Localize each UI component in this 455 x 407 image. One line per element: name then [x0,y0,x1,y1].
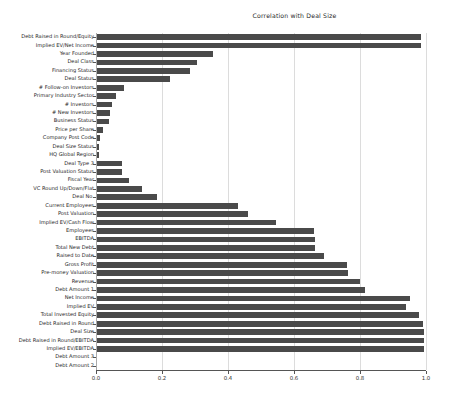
y-tick-label: Debt Raised in Round/EBITDA [19,338,94,343]
y-tick-label: Net Income [65,296,94,301]
y-tick-label: Gross Profit [65,262,94,267]
bar [96,85,124,91]
y-tick-label: Fiscal Year [68,178,94,183]
y-tick-mark [93,223,96,224]
y-axis-line [96,33,97,371]
y-tick-label: # New Investors [52,110,94,115]
y-tick-mark [93,315,96,316]
bar [96,169,122,175]
y-tick-mark [93,130,96,131]
y-tick-label: Implied EV/Net Income [36,43,94,48]
bar [96,34,421,40]
y-tick-label: Implied EV [67,304,94,309]
y-tick-mark [93,366,96,367]
y-tick-mark [93,298,96,299]
x-tick-mark [360,371,361,374]
y-tick-label: Deal Status [65,77,94,82]
y-tick-label: Company Post Code [43,136,94,141]
y-tick-mark [93,332,96,333]
y-tick-mark [93,113,96,114]
y-tick-label: Implied EV/Cash Flow [39,220,94,225]
bar [96,338,424,344]
y-tick-label: Debt Amount 2 [55,363,94,368]
bar [96,237,315,243]
y-tick-mark [93,324,96,325]
bar [96,43,421,49]
bar [96,102,112,108]
y-tick-mark [93,105,96,106]
bar [96,51,213,57]
y-tick-mark [93,290,96,291]
y-tick-mark [93,189,96,190]
y-tick-label: Current Employees [45,203,94,208]
y-tick-label: # Follow-on Investors [39,85,94,90]
correlation-bar-chart: Correlation with Deal Size Debt Raised i… [0,0,455,407]
bar [96,253,324,259]
y-tick-mark [93,357,96,358]
y-tick-label: Debt Amount 3 [55,355,94,360]
bar [96,304,406,310]
y-tick-label: Year Founded [60,52,94,57]
y-tick-mark [93,172,96,173]
gridline-x [162,33,163,370]
y-tick-mark [93,265,96,266]
x-tick-mark [228,371,229,374]
bar [96,287,365,293]
bar [96,329,424,335]
gridline-x [426,33,427,370]
y-tick-mark [93,273,96,274]
y-tick-mark [93,282,96,283]
y-tick-mark [93,37,96,38]
bar [96,178,129,184]
bar [96,220,276,226]
y-tick-mark [93,349,96,350]
bar [96,312,419,318]
bar [96,119,109,125]
bar [96,127,103,133]
y-tick-label: Price per Share [55,127,94,132]
bar [96,194,157,200]
x-tick-mark [294,371,295,374]
y-tick-mark [93,147,96,148]
bar [96,245,315,251]
x-tick-mark [96,371,97,374]
y-tick-mark [93,62,96,63]
y-tick-label: Post Valuation Status [40,169,94,174]
bar [96,76,170,82]
bar [96,346,424,352]
y-tick-label: Business Status [54,119,94,124]
bar [96,211,248,217]
bar [96,110,110,116]
y-tick-label: Pre-money Valuation [41,271,94,276]
y-tick-mark [93,214,96,215]
y-tick-label: Debt Raised in Round [39,321,94,326]
y-tick-mark [93,96,96,97]
bar [96,262,347,268]
gridline-x [360,33,361,370]
bar [96,279,360,285]
y-tick-mark [93,138,96,139]
y-tick-mark [93,239,96,240]
bar [96,161,122,167]
bar [96,321,423,327]
y-tick-mark [93,307,96,308]
x-tick-label: 0.4 [216,375,240,381]
y-tick-label: Post Valuation [58,212,94,217]
bar [96,203,238,209]
y-tick-label: Revenue [72,279,94,284]
y-tick-label: Deal Size Status [52,144,94,149]
y-tick-mark [93,206,96,207]
y-tick-mark [93,54,96,55]
bar [96,296,410,302]
y-tick-mark [93,155,96,156]
bar [96,228,314,234]
x-tick-label: 0.2 [150,375,174,381]
y-tick-label: Debt Amount 1 [55,287,94,292]
y-tick-mark [93,46,96,47]
y-tick-label: Deal Class [67,60,94,65]
bar [96,68,190,74]
y-tick-mark [93,180,96,181]
y-tick-mark [93,248,96,249]
y-tick-mark [93,79,96,80]
y-tick-mark [93,88,96,89]
